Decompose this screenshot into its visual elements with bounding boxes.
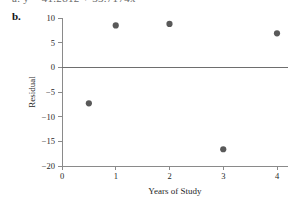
data-point (86, 100, 92, 106)
data-point (220, 146, 226, 152)
residual-plot-svg: 1050−5−10−15−20 01234 Residual Years of … (0, 0, 292, 200)
data-point (113, 22, 119, 28)
data-points (86, 21, 280, 153)
data-point (274, 30, 280, 36)
y-tick-label: −20 (42, 161, 55, 171)
y-tick-label: −15 (42, 136, 55, 146)
residual-plot: 1050−5−10−15−20 01234 Residual Years of … (0, 0, 292, 200)
y-axis-ticks: 1050−5−10−15−20 (42, 13, 62, 171)
x-axis-title: Years of Study (148, 186, 202, 196)
y-axis-title: Residual (27, 76, 37, 108)
y-tick-label: 5 (51, 38, 55, 48)
y-tick-label: 10 (47, 13, 56, 23)
x-tick-label: 1 (114, 171, 118, 181)
y-tick-label: −5 (46, 87, 55, 97)
x-tick-label: 3 (221, 171, 225, 181)
y-tick-label: 0 (51, 62, 55, 72)
x-tick-label: 0 (60, 171, 64, 181)
y-tick-label: −10 (42, 112, 55, 122)
x-tick-label: 4 (275, 171, 280, 181)
data-point (166, 21, 172, 27)
x-axis-ticks: 01234 (60, 166, 280, 181)
x-tick-label: 2 (167, 171, 171, 181)
